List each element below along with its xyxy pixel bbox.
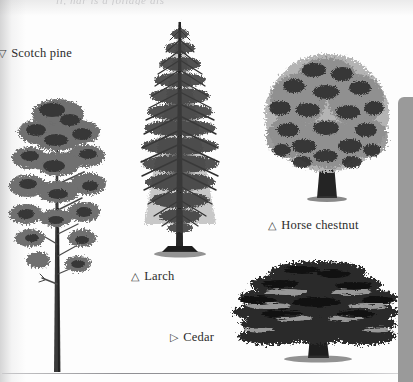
caption-cedar: ▷Cedar xyxy=(170,330,214,345)
scroll-panel[interactable] xyxy=(398,97,413,382)
caption-label: Cedar xyxy=(183,330,214,344)
caption-larch: △Larch xyxy=(131,269,174,284)
tree-illustration-larch xyxy=(124,14,236,264)
caption-label: Larch xyxy=(144,269,174,283)
scanned-book-page: ll, nar is a foliage dis xyxy=(0,0,413,382)
triangle-marker-icon: △ xyxy=(268,219,276,232)
tree-illustration-horse-chestnut xyxy=(258,52,398,212)
triangle-marker-icon: ▽ xyxy=(0,47,6,60)
caption-horse-chestnut: △Horse chestnut xyxy=(268,218,359,233)
page-bottom-rule xyxy=(2,373,402,374)
caption-scotch-pine: ▽Scotch pine xyxy=(2,46,72,61)
tree-illustration-cedar xyxy=(228,258,404,372)
caption-label: Horse chestnut xyxy=(281,218,358,232)
tree-illustration-scotch-pine xyxy=(4,88,116,376)
clipped-headline-text: ll, nar is a foliage dis xyxy=(56,0,286,5)
triangle-marker-icon: △ xyxy=(131,270,139,283)
triangle-marker-icon: ▷ xyxy=(170,331,178,344)
caption-label: Scotch pine xyxy=(11,46,72,60)
